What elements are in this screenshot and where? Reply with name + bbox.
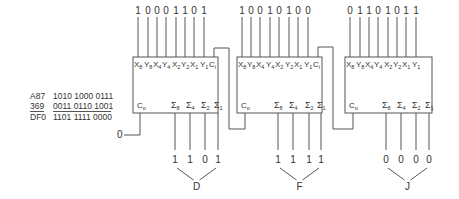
calc-row-1-binary: 1010 1000 0111 (53, 91, 113, 101)
input-bit: 1 (286, 5, 292, 16)
input-bit: 1 (413, 5, 419, 16)
input-pin-label-sub: 8 (149, 64, 152, 70)
input-pin-label-sub: 4 (158, 64, 161, 70)
sigma-sub: 8 (177, 105, 180, 111)
input-bit: 0 (257, 5, 263, 16)
group-brace-right (411, 168, 428, 180)
sigma-sub: 2 (311, 105, 314, 111)
carry-out-label-sub: o (143, 105, 146, 111)
sigma-sub: 2 (207, 105, 210, 111)
input-bit: 1 (385, 5, 391, 16)
input-pin-label-sub: 1 (417, 64, 420, 70)
output-bit: 1 (275, 154, 281, 165)
calc-row-1-label: A87 (30, 91, 45, 101)
input-pin-label-sub: 4 (370, 64, 373, 70)
group-brace-left (177, 168, 194, 180)
output-bit: 0 (398, 154, 404, 165)
input-bit: 0 (248, 5, 254, 16)
calc-row-2-binary: 0011 0110 1001 (53, 101, 113, 111)
group-brace-left (280, 168, 297, 180)
input-pin-label-sub: 8 (252, 64, 255, 70)
input-pin-label-sub: 2 (389, 64, 392, 70)
sigma-sub: 8 (388, 105, 391, 111)
input-bit: 1 (173, 5, 179, 16)
input-bit: 1 (403, 5, 409, 16)
input-pin-label-sub: 2 (398, 64, 401, 70)
hex-addition: A87 1010 1000 0111 369 0011 0110 1001 DF… (30, 91, 113, 122)
sigma-sub: 4 (192, 105, 195, 111)
input-pin-label-sub: 1 (195, 64, 198, 70)
input-bit: 0 (347, 5, 353, 16)
input-bit: 0 (276, 5, 282, 16)
group-brace-right (200, 168, 217, 180)
input-pin-label-sub: 8 (351, 64, 354, 70)
output-bit: 1 (187, 154, 193, 165)
input-bit: 0 (163, 5, 169, 16)
input-pin-label-sub: 4 (271, 64, 274, 70)
calc-row-2-label: 369 (30, 101, 44, 111)
sigma-sub: 1 (323, 105, 326, 111)
input-bit: 0 (191, 5, 197, 16)
input-pin-label-sub: 8 (361, 64, 364, 70)
sigma-sub: 4 (295, 105, 298, 111)
output-bit: 0 (413, 154, 419, 165)
carry-out-label-sub: o (355, 105, 358, 111)
input-bit: 1 (267, 5, 273, 16)
output-pin-label: Σ1 (214, 100, 223, 111)
adder-diagram: A87 1010 1000 0111 369 0011 0110 1001 DF… (0, 0, 459, 199)
initial-carry-wire (124, 113, 140, 135)
input-bit: 0 (145, 5, 151, 16)
input-bit: 0 (375, 5, 381, 16)
hex-digit-label: F (296, 181, 302, 192)
adder-2: 10010100X8Y8X4Y4X2Y2X1Y1CiCoΣ81Σ41Σ21Σ11… (237, 5, 326, 192)
hex-digit-label: J (405, 181, 410, 192)
output-bit: 0 (202, 154, 208, 165)
input-pin-label-sub: 1 (309, 64, 312, 70)
input-pin-label-sub: 8 (243, 64, 246, 70)
input-pin-label-sub: 2 (280, 64, 283, 70)
output-bit: 1 (215, 154, 221, 165)
input-bit: 1 (366, 5, 372, 16)
input-bit: 1 (182, 5, 188, 16)
output-bit: 1 (290, 154, 296, 165)
calc-row-3-label: DF0 (30, 112, 46, 122)
input-bit: 1 (135, 5, 141, 16)
input-bit: 1 (239, 5, 245, 16)
group-brace-left (388, 168, 405, 180)
input-pin-label-sub: 1 (299, 64, 302, 70)
sigma-sub: 1 (431, 105, 434, 111)
input-bit: 0 (305, 5, 311, 16)
sigma-sub: 1 (220, 105, 223, 111)
output-pin-label: Σ1 (317, 100, 326, 111)
input-pin-label-sub: 4 (167, 64, 170, 70)
input-pin-label-sub: 2 (177, 64, 180, 70)
input-bit: 0 (394, 5, 400, 16)
carry-out-label-sub: o (247, 105, 250, 111)
output-bit: 0 (383, 154, 389, 165)
carry-in-label-sub: i (319, 64, 320, 70)
input-pin-label-sub: 2 (290, 64, 293, 70)
carry-in-label-sub: i (215, 64, 216, 70)
output-bit: 1 (172, 154, 178, 165)
input-bit: 0 (154, 5, 160, 16)
initial-carry-in: 0 (117, 129, 123, 140)
input-bit: 1 (357, 5, 363, 16)
input-bit: 1 (201, 5, 207, 16)
input-pin-label-sub: 4 (261, 64, 264, 70)
output-bit: 0 (426, 154, 432, 165)
input-pin-label-sub: 1 (407, 64, 410, 70)
input-pin-label-sub: 1 (205, 64, 208, 70)
sigma-sub: 2 (418, 105, 421, 111)
input-pin-label-sub: 8 (139, 64, 142, 70)
output-bit: 1 (318, 154, 324, 165)
adder-3: 01101011X8Y8X4Y4X2Y2X1Y1CoΣ80Σ40Σ20Σ10J (345, 5, 434, 192)
input-bit: 0 (295, 5, 301, 16)
output-bit: 1 (306, 154, 312, 165)
sigma-sub: 4 (403, 105, 406, 111)
group-brace-right (303, 168, 320, 180)
sigma-sub: 8 (280, 105, 283, 111)
hex-digit-label: D (193, 181, 200, 192)
calc-row-3-binary: 1101 1111 0000 (53, 112, 112, 122)
input-pin-label-sub: 2 (186, 64, 189, 70)
input-pin-label-sub: 4 (379, 64, 382, 70)
